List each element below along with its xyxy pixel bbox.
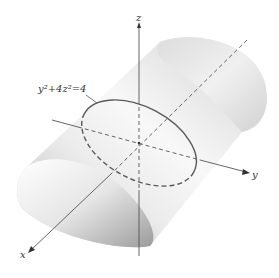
x-axis-label: x bbox=[20, 249, 26, 260]
origin-point bbox=[138, 142, 141, 145]
z-axis-label: z bbox=[135, 12, 142, 23]
equation-leader-line bbox=[86, 95, 97, 103]
cylinder-surface bbox=[17, 37, 267, 247]
y-arrowhead-icon bbox=[242, 169, 250, 175]
y-axis-label: y bbox=[251, 169, 258, 180]
elliptic-cylinder-diagram: y²+4z²=4 z y x bbox=[0, 0, 279, 278]
equation-label: y²+4z²=4 bbox=[37, 83, 86, 94]
